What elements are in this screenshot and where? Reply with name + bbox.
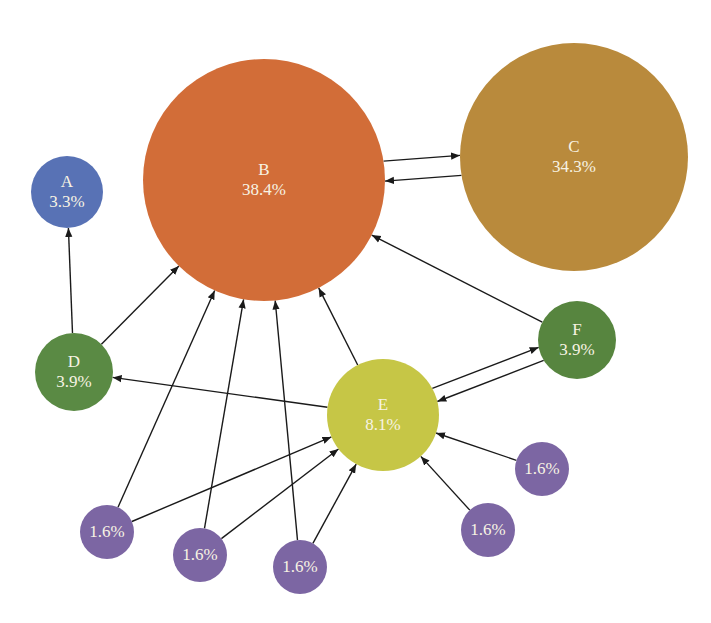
edge-p2-to-b — [205, 299, 244, 528]
edge-e-to-b — [319, 288, 358, 365]
node-percentage: 1.6% — [470, 520, 505, 540]
node-label: D — [68, 352, 80, 372]
node-percentage: 8.1% — [365, 415, 400, 435]
node-p3: 1.6% — [273, 540, 327, 594]
edge-d-to-a — [68, 228, 72, 333]
node-p1: 1.6% — [80, 505, 134, 559]
edge-e-to-d — [113, 377, 328, 407]
node-label: E — [378, 395, 388, 415]
edge-b-to-c — [384, 155, 461, 161]
node-percentage: 3.3% — [49, 192, 84, 212]
node-label: C — [568, 137, 579, 157]
edge-p2-to-e — [221, 449, 338, 539]
edge-d-to-b — [101, 266, 178, 344]
edge-p3-to-b — [275, 301, 297, 541]
node-c: C34.3% — [460, 43, 688, 271]
node-d: D3.9% — [35, 333, 113, 411]
edge-p1-to-e — [132, 437, 332, 522]
edge-c-to-b — [385, 175, 462, 181]
edge-p4-to-e — [421, 456, 470, 510]
node-p5: 1.6% — [515, 442, 569, 496]
node-label: B — [258, 160, 269, 180]
node-label: F — [572, 320, 581, 340]
node-b: B38.4% — [143, 59, 385, 301]
node-label: A — [61, 172, 73, 192]
node-percentage: 3.9% — [56, 372, 91, 392]
node-p4: 1.6% — [461, 503, 515, 557]
node-percentage: 38.4% — [242, 180, 286, 200]
node-f: F3.9% — [538, 301, 616, 379]
edge-p5-to-e — [436, 433, 516, 460]
node-p2: 1.6% — [173, 528, 227, 582]
node-e: E8.1% — [327, 359, 439, 471]
node-percentage: 1.6% — [524, 459, 559, 479]
node-percentage: 1.6% — [89, 522, 124, 542]
node-percentage: 34.3% — [552, 157, 596, 177]
node-percentage: 3.9% — [559, 340, 594, 360]
node-percentage: 1.6% — [182, 545, 217, 565]
node-a: A3.3% — [31, 156, 103, 228]
node-percentage: 1.6% — [282, 557, 317, 577]
edge-p1-to-b — [118, 291, 215, 508]
edge-p3-to-e — [313, 464, 356, 543]
